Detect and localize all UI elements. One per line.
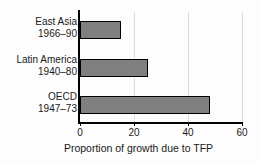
category-label-latin-america: Latin America 1940–80: [0, 54, 77, 77]
x-tick-mark-40: [188, 122, 189, 126]
bar-oecd: [80, 96, 210, 114]
bar-chart: 0 20 40 60 East Asia 1966–90 Latin Ameri…: [0, 0, 259, 163]
x-tick-label-0: 0: [65, 127, 95, 139]
bar-latin-america: [80, 59, 148, 77]
category-label-line1: Latin America: [0, 54, 77, 66]
x-axis-line: [78, 122, 243, 124]
bar-east-asia: [80, 21, 121, 39]
x-tick-mark-20: [134, 122, 135, 126]
category-label-line1: East Asia: [0, 16, 77, 28]
category-label-line2: 1966–90: [0, 28, 77, 40]
x-tick-label-60: 60: [227, 127, 257, 139]
gridline-60: [242, 12, 243, 122]
plot-area: [80, 12, 242, 122]
category-label-line2: 1947–73: [0, 103, 77, 115]
x-tick-mark-60: [242, 122, 243, 126]
y-axis-line: [78, 10, 80, 124]
category-label-line1: OECD: [0, 91, 77, 103]
x-tick-mark-0: [80, 122, 81, 126]
x-axis-title: Proportion of growth due to TFP: [0, 142, 259, 154]
x-tick-label-20: 20: [119, 127, 149, 139]
category-label-line2: 1940–80: [0, 66, 77, 78]
category-label-oecd: OECD 1947–73: [0, 91, 77, 114]
category-label-east-asia: East Asia 1966–90: [0, 16, 77, 39]
x-tick-label-40: 40: [173, 127, 203, 139]
